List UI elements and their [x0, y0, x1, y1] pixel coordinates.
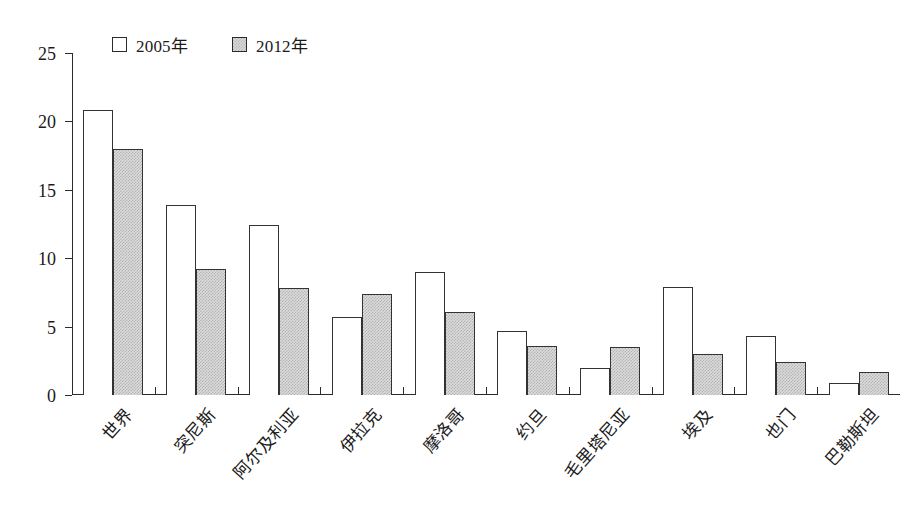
bar-2005	[166, 205, 196, 395]
bar-2005	[580, 368, 610, 395]
plot-area: 0510152025	[72, 53, 900, 395]
y-tick-label-20: 20	[38, 112, 56, 133]
y-tick-label-5: 5	[47, 317, 56, 338]
x-axis-label-text: 也门	[758, 402, 800, 445]
x-axis-label-text: 摩洛哥	[415, 402, 469, 458]
bar-2005	[746, 336, 776, 395]
bar-2012	[196, 269, 226, 395]
y-axis-line	[72, 53, 73, 395]
y-tick-15: 15	[65, 190, 72, 191]
bar-group	[414, 53, 476, 395]
x-axis-label-text: 巴勒斯坦	[818, 402, 883, 471]
bar-group	[82, 53, 144, 395]
bar-group	[745, 53, 807, 395]
bar-group	[165, 53, 227, 395]
x-axis-label-text: 约旦	[510, 402, 552, 445]
x-axis-label-text: 埃及	[676, 402, 718, 445]
bar-group	[496, 53, 558, 395]
bar-2005	[83, 110, 113, 395]
x-axis-label-text: 世界	[96, 402, 138, 445]
bar-2005	[249, 225, 279, 395]
bar-2005	[497, 331, 527, 395]
legend-swatch-gray-square	[232, 37, 247, 52]
bar-2012	[113, 149, 143, 395]
y-tick-0: 0	[65, 395, 72, 396]
y-tick-label-10: 10	[38, 249, 56, 270]
y-tick-20: 20	[65, 121, 72, 122]
x-axis-label-text: 伊拉克	[333, 402, 387, 458]
x-axis-label-text: 阿尔及利亚	[226, 402, 303, 484]
x-axis-label-text: 突尼斯	[167, 402, 221, 458]
bar-chart: 2005年 2012年 0510152025 世界突尼斯阿尔及利亚伊拉克摩洛哥约…	[0, 0, 919, 530]
y-tick-25: 25	[65, 53, 72, 54]
bar-group	[579, 53, 641, 395]
y-tick-label-0: 0	[47, 386, 56, 407]
bar-group	[828, 53, 890, 395]
y-tick-label-15: 15	[38, 180, 56, 201]
legend-swatch-white-square	[112, 37, 127, 52]
y-tick-5: 5	[65, 327, 72, 328]
bar-2005	[829, 383, 859, 395]
x-axis-label-text: 毛里塔尼亚	[558, 402, 635, 484]
y-tick-10: 10	[65, 258, 72, 259]
bar-group	[248, 53, 310, 395]
y-tick-label-25: 25	[38, 44, 56, 65]
